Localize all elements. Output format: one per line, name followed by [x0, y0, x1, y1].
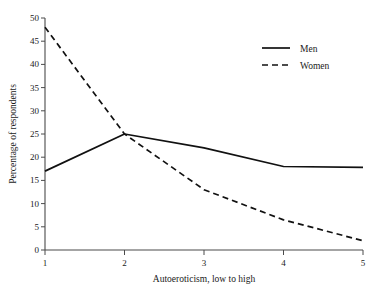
y-tick-label: 50 — [30, 13, 40, 23]
y-tick-label: 30 — [30, 106, 40, 116]
y-tick-label: 10 — [30, 199, 40, 209]
x-tick-label: 1 — [43, 258, 48, 268]
chart-legend: Men Women — [262, 44, 330, 71]
x-tick-label: 2 — [122, 258, 127, 268]
x-tick-labels: 1 2 3 4 5 — [43, 258, 366, 268]
series-line-men — [45, 134, 363, 171]
y-tick-label: 0 — [35, 245, 40, 255]
y-tick-label: 40 — [30, 59, 40, 69]
legend-label-men: Men — [300, 44, 318, 54]
x-axis-title: Autoeroticism, low to high — [153, 274, 256, 284]
y-tick-label: 5 — [35, 222, 40, 232]
y-tick-label: 35 — [30, 83, 40, 93]
y-tick-labels: 0 5 10 15 20 25 30 35 40 45 50 — [30, 13, 40, 255]
y-tick-label: 25 — [30, 129, 40, 139]
y-axis-ticks — [41, 18, 45, 250]
chart-figure: Percentage of respondents 0 5 10 15 20 2… — [0, 0, 386, 288]
y-axis-title: Percentage of respondents — [8, 84, 18, 184]
series-line-women — [45, 27, 363, 240]
line-chart-svg: Percentage of respondents 0 5 10 15 20 2… — [0, 0, 386, 288]
x-axis-ticks — [45, 250, 363, 255]
x-tick-label: 3 — [202, 258, 207, 268]
y-tick-label: 20 — [30, 152, 40, 162]
x-tick-label: 4 — [281, 258, 286, 268]
y-tick-label: 45 — [30, 36, 40, 46]
legend-label-women: Women — [300, 61, 330, 71]
x-tick-label: 5 — [361, 258, 366, 268]
y-tick-label: 15 — [30, 175, 40, 185]
